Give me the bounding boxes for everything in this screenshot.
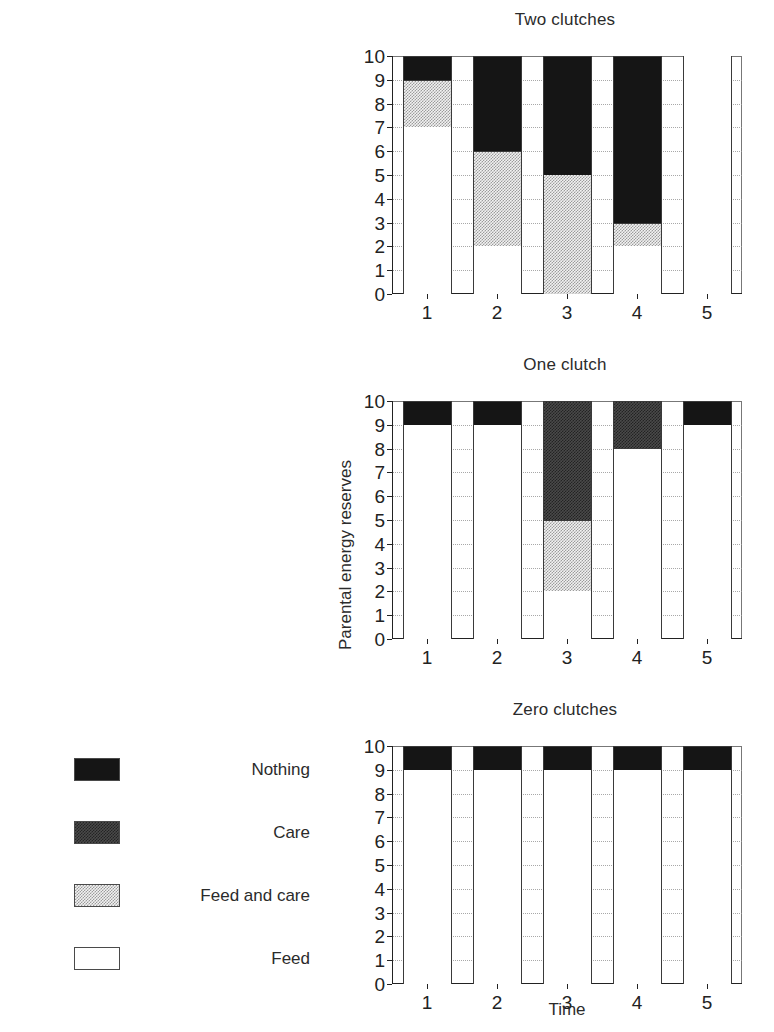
bar-segment-one-clutch-3-feed [544,591,591,639]
bar-segment-zero-clutches-5-nothing [684,746,731,770]
bar-segment-zero-clutches-3-feed [544,770,591,984]
legend-swatch-care [74,821,120,844]
bar-two-clutches-3 [543,56,592,294]
xtick-mark-two-clutches-2 [497,294,498,299]
y-axis-spine-zero-clutches [392,746,393,984]
bar-segment-one-clutch-3-feedcare [544,520,591,591]
bar-segment-zero-clutches-2-nothing [474,746,521,770]
legend-swatch-nothing [74,758,120,781]
bar-one-clutch-4 [613,401,662,639]
xtick-mark-one-clutch-3 [567,639,568,644]
legend-label-feedcare: Feed and care [200,884,310,907]
legend-label-care: Care [273,821,310,844]
bar-segment-one-clutch-2-nothing [474,401,521,425]
xtick-mark-one-clutch-4 [637,639,638,644]
legend-item-feedcare: Feed and care [52,881,310,911]
panel-title-zero-clutches: Zero clutches [370,700,760,720]
ytick-label-two-clutches-0: 0 [374,285,392,304]
ytick-label-one-clutch-5: 5 [374,511,392,530]
xtick-mark-zero-clutches-2 [497,984,498,989]
bar-segment-zero-clutches-4-nothing [614,746,661,770]
bar-segment-two-clutches-5-feed [684,56,731,294]
bar-one-clutch-2 [473,401,522,639]
bar-segment-two-clutches-2-nothing [474,56,521,151]
ytick-label-two-clutches-3: 3 [374,213,392,232]
bar-zero-clutches-1 [403,746,452,984]
bar-segment-two-clutches-1-nothing [404,56,451,80]
bar-segment-two-clutches-2-feed [474,246,521,294]
panel-two-clutches: Two clutches10987654321012345 [370,10,760,334]
legend-label-nothing: Nothing [251,758,310,781]
bar-segment-zero-clutches-4-feed [614,770,661,984]
panel-zero-clutches: Zero clutches10987654321012345 [370,700,760,1024]
legend-swatch-feedcare [74,884,120,907]
ytick-label-zero-clutches-10: 10 [364,737,392,756]
legend-item-nothing: Nothing [52,755,310,785]
xtick-mark-two-clutches-1 [427,294,428,299]
legend: NothingCareFeed and careFeed [52,755,310,1000]
xtick-mark-one-clutch-5 [707,639,708,644]
ytick-label-one-clutch-3: 3 [374,558,392,577]
ytick-label-one-clutch-6: 6 [374,487,392,506]
ytick-label-zero-clutches-5: 5 [374,856,392,875]
xtick-mark-zero-clutches-4 [637,984,638,989]
legend-item-feed: Feed [52,944,310,974]
xtick-mark-zero-clutches-1 [427,984,428,989]
bar-segment-zero-clutches-1-feed [404,770,451,984]
bar-segment-one-clutch-1-feed [404,425,451,639]
xtick-mark-one-clutch-2 [497,639,498,644]
bar-segment-one-clutch-5-nothing [684,401,731,425]
bar-segment-two-clutches-3-nothing [544,56,591,175]
bar-zero-clutches-4 [613,746,662,984]
xtick-mark-two-clutches-5 [707,294,708,299]
ytick-label-one-clutch-0: 0 [374,630,392,649]
ytick-label-zero-clutches-1: 1 [374,951,392,970]
bar-one-clutch-5 [683,401,732,639]
xtick-mark-zero-clutches-3 [567,984,568,989]
xtick-mark-zero-clutches-5 [707,984,708,989]
plot-area-one-clutch: 10987654321012345 [392,401,742,639]
bar-segment-two-clutches-4-feedcare [614,223,661,247]
ytick-label-two-clutches-4: 4 [374,189,392,208]
legend-swatch-feed [74,947,120,970]
y-axis-spine-one-clutch [392,401,393,639]
y-axis-label: Parental energy reserves [336,460,356,650]
ytick-label-one-clutch-8: 8 [374,439,392,458]
ytick-label-one-clutch-7: 7 [374,463,392,482]
ytick-label-zero-clutches-2: 2 [374,927,392,946]
ytick-label-two-clutches-8: 8 [374,94,392,113]
bar-two-clutches-2 [473,56,522,294]
plot-area-zero-clutches: 10987654321012345 [392,746,742,984]
xtick-mark-one-clutch-1 [427,639,428,644]
ytick-label-two-clutches-5: 5 [374,166,392,185]
ytick-label-two-clutches-10: 10 [364,47,392,66]
bar-segment-one-clutch-4-care [614,401,661,449]
ytick-label-two-clutches-7: 7 [374,118,392,137]
ytick-label-one-clutch-2: 2 [374,582,392,601]
bar-segment-two-clutches-3-feedcare [544,175,591,294]
bar-segment-zero-clutches-5-feed [684,770,731,984]
ytick-label-zero-clutches-3: 3 [374,903,392,922]
bar-zero-clutches-2 [473,746,522,984]
xtick-mark-two-clutches-4 [637,294,638,299]
bar-segment-zero-clutches-2-feed [474,770,521,984]
bar-one-clutch-3 [543,401,592,639]
plot-area-two-clutches: 10987654321012345 [392,56,742,294]
bar-segment-one-clutch-1-nothing [404,401,451,425]
bar-segment-two-clutches-1-feedcare [404,80,451,128]
panel-one-clutch: One clutch10987654321012345 [370,355,760,679]
bar-two-clutches-1 [403,56,452,294]
ytick-label-zero-clutches-8: 8 [374,784,392,803]
x-axis-label: Time [392,1000,742,1020]
ytick-label-one-clutch-1: 1 [374,606,392,625]
ytick-label-two-clutches-1: 1 [374,261,392,280]
bar-zero-clutches-5 [683,746,732,984]
ytick-label-zero-clutches-7: 7 [374,808,392,827]
ytick-label-zero-clutches-6: 6 [374,832,392,851]
ytick-label-one-clutch-9: 9 [374,415,392,434]
bar-segment-one-clutch-5-feed [684,425,731,639]
legend-label-feed: Feed [271,947,310,970]
bar-one-clutch-1 [403,401,452,639]
bar-segment-two-clutches-2-feedcare [474,151,521,246]
bar-segment-one-clutch-2-feed [474,425,521,639]
